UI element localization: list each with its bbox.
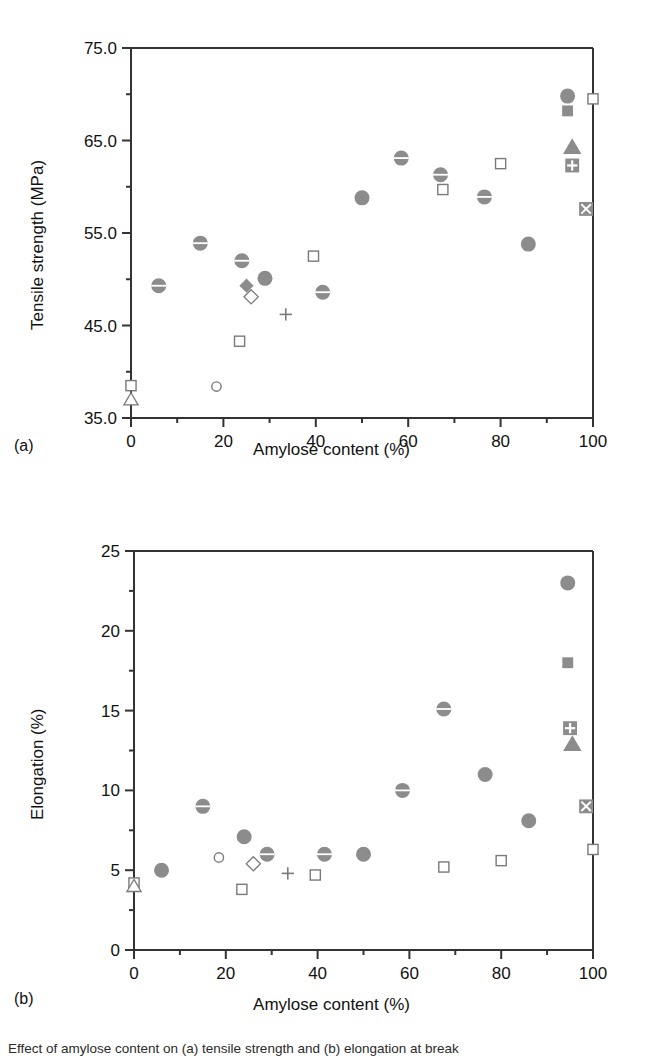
y-tick-label: 25 (101, 542, 120, 561)
x-tick-label: 20 (216, 964, 235, 983)
figure-container: 35.045.055.065.075.0020406080100 Tensile… (0, 0, 663, 1061)
y-axis-title-a: Tensile strength (MPa) (28, 160, 48, 330)
x-tick-label: 0 (129, 964, 138, 983)
y-tick-label: 35.0 (84, 409, 117, 428)
y-tick-label: 45.0 (84, 317, 117, 336)
data-points (127, 575, 598, 894)
panel-b-elongation: 0510152025020406080100 (0, 490, 663, 995)
plot-area-b: 0510152025020406080100 (0, 490, 663, 995)
x-tick-label: 40 (308, 964, 327, 983)
y-tick-label: 65.0 (84, 132, 117, 151)
panel-label-b: (b) (14, 990, 34, 1008)
panel-label-a: (a) (14, 437, 34, 455)
x-tick-label: 100 (579, 964, 607, 983)
y-tick-label: 5 (111, 861, 120, 880)
y-tick-label: 75.0 (84, 39, 117, 58)
data-points (124, 89, 598, 405)
y-tick-label: 10 (101, 781, 120, 800)
x-axis-title-b: Amylose content (%) (0, 995, 663, 1015)
plot-area-a: 35.045.055.065.075.0020406080100 (0, 0, 663, 490)
y-tick-label: 55.0 (84, 224, 117, 243)
figure-caption: Effect of amylose content on (a) tensile… (8, 1040, 656, 1060)
y-tick-label: 0 (111, 941, 120, 960)
y-axis-title-b: Elongation (%) (28, 708, 48, 820)
y-tick-label: 15 (101, 702, 120, 721)
y-tick-label: 20 (101, 622, 120, 641)
x-tick-label: 80 (492, 964, 511, 983)
x-tick-label: 60 (400, 964, 419, 983)
x-axis-title-a: Amylose content (%) (0, 440, 663, 460)
panel-a-tensile-strength: 35.045.055.065.075.0020406080100 Tensile… (0, 0, 663, 490)
